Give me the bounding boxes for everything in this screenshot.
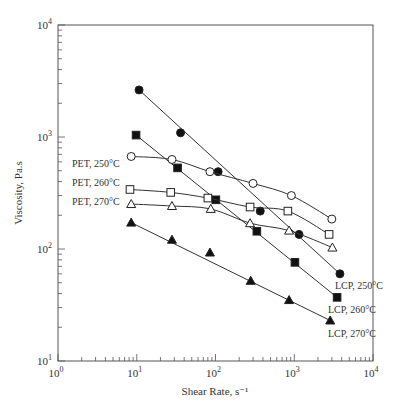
x-axis-label: Shear Rate, s⁻¹ <box>182 385 249 397</box>
circle-marker <box>135 86 143 94</box>
triangle-marker <box>285 296 294 304</box>
plot-frame <box>58 25 373 361</box>
series-lcp-270-c: LCP, 270°C <box>127 218 377 339</box>
circle-marker <box>127 152 135 160</box>
square-marker <box>253 227 261 235</box>
triangle-marker <box>127 200 136 208</box>
series-pet-270-c: PET, 270°C <box>72 196 337 251</box>
series-label: LCP, 260°C <box>328 304 376 315</box>
x-tick-label: 103 <box>285 365 300 379</box>
circle-marker <box>249 179 257 187</box>
x-tick-label: 100 <box>49 365 64 379</box>
circle-marker <box>328 215 336 223</box>
square-marker <box>284 207 292 215</box>
triangle-marker <box>127 218 136 226</box>
series-label: PET, 250°C <box>72 158 120 169</box>
triangle-marker <box>205 248 214 256</box>
series-label: PET, 260°C <box>72 177 120 188</box>
x-tick-label: 104 <box>364 365 379 379</box>
square-marker <box>126 186 134 194</box>
series-label: LCP, 250°C <box>335 280 383 291</box>
x-tick-label: 101 <box>127 365 142 379</box>
square-marker <box>204 194 212 202</box>
square-marker <box>246 203 254 211</box>
y-tick-label: 104 <box>37 17 52 31</box>
circle-marker <box>177 129 185 137</box>
circle-marker <box>336 270 344 278</box>
y-tick-label: 103 <box>37 129 52 143</box>
circle-marker <box>168 155 176 163</box>
square-marker <box>132 131 140 139</box>
square-marker <box>333 294 341 302</box>
viscosity-chart: 100101102103104101102103104 LCP, 250°CLC… <box>0 0 403 415</box>
square-marker <box>291 259 299 267</box>
series-line <box>139 90 340 274</box>
square-marker <box>174 164 182 172</box>
series-line <box>130 189 329 234</box>
circle-marker <box>206 168 214 176</box>
triangle-marker <box>326 316 335 324</box>
y-tick-label: 101 <box>37 353 52 367</box>
series-label: PET, 270°C <box>72 196 120 207</box>
y-tick-label: 102 <box>37 241 52 255</box>
y-axis-label: Viscosity, Pa.s <box>12 161 24 225</box>
circle-marker <box>287 192 295 200</box>
triangle-marker <box>167 235 176 243</box>
data-series: LCP, 250°CLCP, 260°CLCP, 270°CPET, 250°C… <box>72 86 383 339</box>
square-marker <box>325 231 333 239</box>
triangle-marker <box>328 243 337 251</box>
series-line <box>136 135 337 297</box>
x-tick-label: 102 <box>206 365 221 379</box>
series-label: LCP, 270°C <box>328 328 376 339</box>
series-line <box>131 204 332 248</box>
square-marker <box>167 189 175 197</box>
series-line <box>131 156 332 219</box>
